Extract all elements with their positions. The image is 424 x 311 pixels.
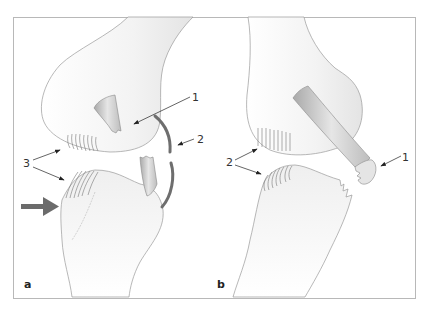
diagram-canvas: 1 2 3 a [0,0,424,311]
callout-a-3: 3 [23,157,30,170]
panel-label-a: a [24,278,31,291]
callout-a-1: 1 [192,91,199,104]
knee-injury-diagram: 1 2 3 a [0,0,424,311]
panel-label-b: b [217,278,225,291]
callout-a-2: 2 [197,133,204,146]
callout-b-2: 2 [226,156,233,169]
callout-b-1: 1 [402,151,409,164]
